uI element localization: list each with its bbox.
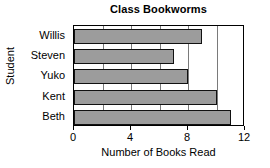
y-axis-label-steven: Steven — [31, 45, 65, 65]
y-axis-label-yuko: Yuko — [41, 65, 65, 85]
bar — [74, 29, 202, 44]
bar-band — [74, 107, 243, 126]
x-axis-tick-label: 0 — [58, 131, 88, 143]
x-axis-tick — [244, 126, 245, 130]
x-axis-tick — [73, 126, 74, 130]
bar-band — [74, 87, 243, 107]
bar — [74, 69, 188, 84]
chart-title: Class Bookworms — [73, 3, 244, 16]
x-axis-tick — [130, 126, 131, 130]
plot-area — [73, 25, 244, 126]
bar-band — [74, 46, 243, 66]
y-axis-label-willis: Willis — [39, 25, 65, 45]
bar — [74, 49, 174, 64]
y-axis-title: Student — [4, 35, 16, 97]
x-axis-tick-label: 12 — [229, 131, 259, 143]
y-axis-label-beth: Beth — [42, 106, 65, 126]
bar-chart: Class Bookworms WillisStevenYukoKentBeth… — [0, 0, 270, 168]
bar-band — [74, 66, 243, 86]
bar — [74, 90, 217, 105]
x-axis-tick-label: 8 — [172, 131, 202, 143]
x-axis-tick-label: 4 — [115, 131, 145, 143]
bar — [74, 110, 231, 125]
bar-band — [74, 26, 243, 46]
x-axis-tick — [187, 126, 188, 130]
x-axis-title: Number of Books Read — [53, 146, 264, 158]
y-axis-label-kent: Kent — [42, 86, 65, 106]
